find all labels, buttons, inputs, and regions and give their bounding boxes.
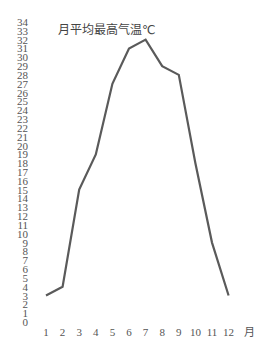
x-tick-label: 7: [143, 326, 149, 338]
x-tick-label: 1: [43, 326, 49, 338]
x-tick-label: 9: [176, 326, 182, 338]
temperature-line: [46, 40, 229, 296]
x-axis-unit-label: 月: [244, 326, 255, 339]
chart-title: 月平均最高气温℃: [58, 22, 155, 37]
x-axis-ticks: 123456789101112: [43, 326, 234, 338]
x-tick-label: 10: [190, 326, 202, 338]
x-tick-label: 5: [110, 326, 116, 338]
x-tick-label: 11: [207, 326, 218, 338]
x-tick-label: 8: [159, 326, 165, 338]
y-tick-label: 34: [17, 16, 29, 28]
temperature-line-chart: 0123456789101112131415161718192021222324…: [0, 0, 272, 364]
x-tick-label: 6: [126, 326, 132, 338]
x-tick-label: 2: [60, 326, 66, 338]
x-tick-label: 3: [76, 326, 82, 338]
x-tick-label: 4: [93, 326, 99, 338]
y-axis-ticks: 0123456789101112131415161718192021222324…: [17, 16, 29, 328]
x-tick-label: 12: [223, 326, 234, 338]
